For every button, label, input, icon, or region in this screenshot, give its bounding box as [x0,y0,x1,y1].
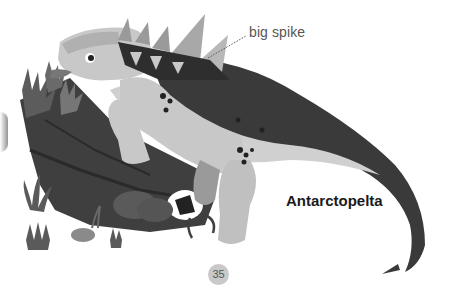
annotation-label: big spike [249,24,305,40]
page-number-badge: 35 [208,264,229,285]
dinosaur-illustration [0,0,457,290]
book-page: big spike Antarctopelta 35 [0,0,457,290]
species-name: Antarctopelta [286,192,383,209]
